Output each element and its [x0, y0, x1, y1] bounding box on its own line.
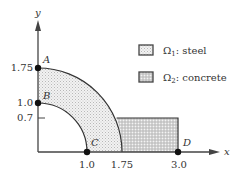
x-tick-label-3.0: 3.0: [171, 159, 187, 170]
point-a-label: A: [42, 54, 50, 65]
point-d-dot: [175, 149, 181, 155]
concrete-region: [117, 118, 178, 152]
y-tick-label-0.7: 0.7: [17, 112, 33, 123]
legend-concrete-label: Ω2: concrete: [163, 72, 227, 85]
domain-diagram: y x 1.75 1.0 0.7 1.0 1.75 3.0 A B C D Ω1…: [0, 0, 244, 177]
legend: Ω1: steel Ω2: concrete: [139, 45, 227, 85]
y-tick-label-1.0: 1.0: [17, 97, 33, 108]
point-b-dot: [35, 100, 41, 106]
point-b-label: B: [42, 90, 50, 101]
point-c-dot: [84, 149, 90, 155]
x-axis-arrow-icon: [209, 149, 220, 155]
point-a-dot: [35, 65, 41, 71]
legend-steel-label: Ω1: steel: [163, 45, 207, 58]
legend-steel-swatch: [139, 45, 153, 55]
y-axis-arrow-icon: [35, 20, 41, 31]
y-tick-label-1.75: 1.75: [11, 62, 33, 73]
x-axis-label: x: [224, 146, 230, 157]
steel-region: [38, 68, 122, 152]
point-d-label: D: [182, 137, 191, 148]
x-tick-label-1.0: 1.0: [79, 159, 95, 170]
point-c-label: C: [91, 137, 99, 148]
x-tick-label-1.75: 1.75: [111, 159, 133, 170]
legend-concrete-swatch: [139, 72, 153, 82]
y-axis-label: y: [34, 7, 41, 18]
